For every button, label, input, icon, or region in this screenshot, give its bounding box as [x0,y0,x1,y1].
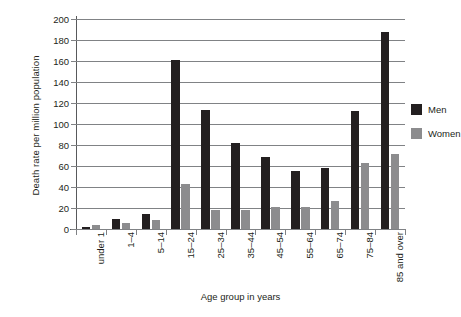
y-tick-label: 160 [53,56,69,67]
bar-men-3 [171,60,180,229]
y-tick-label: 40 [58,182,69,193]
bar-men-6 [261,157,270,229]
y-axis-title: Death rate per million population [30,21,41,231]
x-tick-label: under 1 [95,232,106,264]
legend-label-women: Women [428,128,461,139]
bar-men-9 [351,111,360,229]
legend-item-women: Women [411,128,456,139]
x-tick-label: 85 and over [394,232,405,282]
y-tick-label: 20 [58,203,69,214]
bar-women-9 [361,163,370,229]
bar-women-0 [92,225,101,229]
bar-men-1 [112,219,121,230]
y-tick-label: 200 [53,14,69,25]
bar-men-10 [381,32,390,229]
x-tick-label: 55–64 [304,232,315,258]
bar-women-10 [391,154,400,229]
y-tick-label: 140 [53,77,69,88]
x-tick-mark [405,229,406,235]
bars-layer [76,19,405,229]
bar-men-5 [231,143,240,229]
chart-legend: Men Women [411,104,456,152]
bar-women-1 [122,223,131,229]
legend-item-men: Men [411,104,456,115]
bar-women-5 [241,210,250,229]
bar-women-4 [211,210,220,229]
bar-men-2 [142,214,151,229]
y-tick-label: 0 [64,224,69,235]
bar-women-6 [271,207,280,229]
x-tick-label: 15–24 [185,232,196,258]
x-axis-tick-labels: under 11–45–1415–2425–3435–4445–5455–646… [76,232,405,290]
x-axis-title: Age group in years [76,291,405,302]
legend-swatch-women-icon [411,128,422,139]
bar-men-8 [321,168,330,229]
y-tick-label: 120 [53,98,69,109]
plot-area: 020406080100120140160180200 [76,19,405,229]
x-tick-label: 45–54 [274,232,285,258]
bar-women-8 [331,201,340,229]
x-tick-label: 65–74 [334,232,345,258]
legend-label-men: Men [428,104,446,115]
x-tick-label: 35–44 [245,232,256,258]
bar-women-3 [181,184,190,229]
bar-men-7 [291,171,300,229]
bar-men-4 [201,110,210,229]
bar-men-0 [82,227,91,229]
y-tick-label: 80 [58,140,69,151]
x-tick-label: 25–34 [215,232,226,258]
legend-swatch-men-icon [411,104,422,115]
x-tick-label: 5–14 [155,232,166,253]
x-tick-label: 1–4 [125,232,136,248]
bar-women-2 [152,220,161,229]
y-tick-label: 100 [53,119,69,130]
bar-women-7 [301,207,310,229]
y-tick-label: 180 [53,35,69,46]
y-tick-label: 60 [58,161,69,172]
gridline [76,229,405,230]
x-tick-label: 75–84 [364,232,375,258]
